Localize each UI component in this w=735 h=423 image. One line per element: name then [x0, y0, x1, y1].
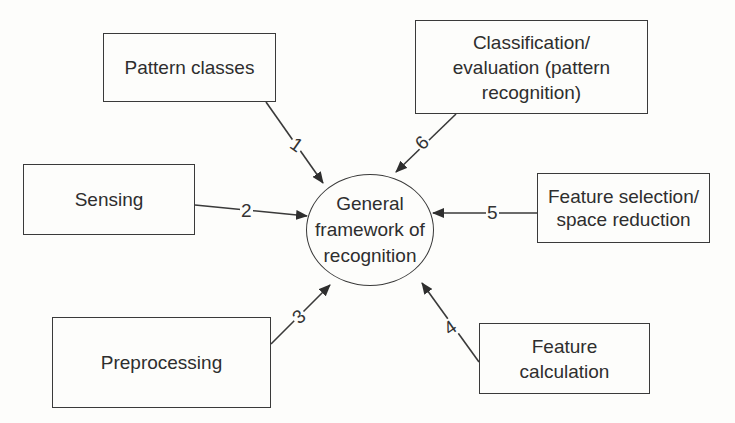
center-node-general-framework: General framework of recognition [306, 174, 434, 286]
center-label-line: General [315, 191, 425, 217]
center-label-line: framework of [315, 217, 425, 243]
node-pattern-classes: Pattern classes [103, 33, 276, 102]
center-label-line: recognition [315, 243, 425, 269]
node-label: Classification/ evaluation (pattern reco… [438, 30, 625, 105]
edge-label-2: 2 [240, 202, 253, 220]
node-label: Sensing [75, 187, 144, 212]
node-feature-calculation: Feature calculation [479, 323, 650, 394]
node-label: Feature selection/ space reduction [544, 185, 703, 231]
node-preprocessing: Preprocessing [52, 317, 271, 408]
node-label: Preprocessing [101, 350, 222, 375]
edge-label-5: 5 [486, 204, 499, 222]
node-feature-selection: Feature selection/ space reduction [537, 173, 710, 243]
node-sensing: Sensing [23, 164, 195, 235]
node-label: Feature calculation [510, 334, 619, 384]
node-label: Pattern classes [125, 55, 255, 80]
node-classification: Classification/ evaluation (pattern reco… [415, 20, 648, 114]
